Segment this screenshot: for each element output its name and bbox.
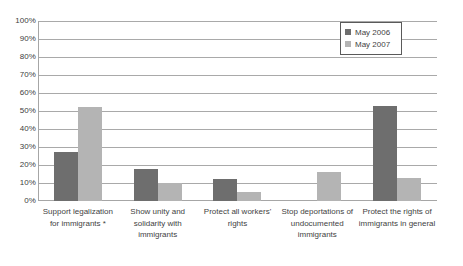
x-axis-label: Stop deportations of undocumented immigr… <box>277 206 357 241</box>
x-axis-label: Show unity and solidarity with immigrant… <box>118 206 198 241</box>
x-axis-labels: Support legalization for immigrants *Sho… <box>38 206 437 262</box>
bar-group <box>198 21 278 201</box>
legend-swatch-icon <box>345 41 351 47</box>
x-axis-label: Protect the rights of immigrants in gene… <box>357 206 437 229</box>
y-tick-label: 90% <box>2 35 36 43</box>
y-tick-label: 10% <box>2 179 36 187</box>
y-tick-label: 20% <box>2 161 36 169</box>
y-tick-label: 50% <box>2 107 36 115</box>
chart-legend: May 2006May 2007 <box>340 22 402 55</box>
bar <box>134 169 158 201</box>
y-tick-label: 60% <box>2 89 36 97</box>
x-axis-label: Support legalization for immigrants * <box>38 206 118 229</box>
bar <box>373 106 397 201</box>
bar <box>54 152 78 201</box>
bar <box>158 183 182 201</box>
legend-item: May 2006 <box>345 26 397 38</box>
bar-group <box>118 21 198 201</box>
legend-label: May 2007 <box>355 40 390 49</box>
legend-swatch-icon <box>345 29 351 35</box>
legend-item: May 2007 <box>345 38 397 50</box>
x-axis-label: Protect all workers' rights <box>198 206 278 229</box>
bar <box>78 107 102 201</box>
bar-chart: 100%90%80%70%60%50%40%30%20%10%0% May 20… <box>0 0 463 266</box>
y-tick-label: 30% <box>2 143 36 151</box>
bar <box>237 192 261 201</box>
bar <box>397 178 421 201</box>
bar <box>213 179 237 201</box>
y-tick-label: 100% <box>2 17 36 25</box>
bar <box>317 172 341 201</box>
y-tick-label: 70% <box>2 71 36 79</box>
bar-group <box>38 21 118 201</box>
y-tick-label: 40% <box>2 125 36 133</box>
y-tick-label: 80% <box>2 53 36 61</box>
y-tick-label: 0% <box>2 197 36 205</box>
y-axis: 100%90%80%70%60%50%40%30%20%10%0% <box>0 0 36 266</box>
legend-label: May 2006 <box>355 28 390 37</box>
